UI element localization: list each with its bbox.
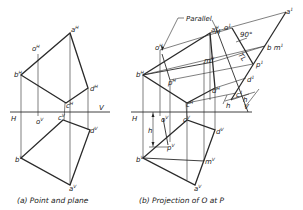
arrow-h-top (152, 113, 155, 117)
label-oV: oV (36, 117, 44, 126)
label-mV-b: mV (205, 157, 216, 166)
label-dV-b: dV (216, 127, 224, 136)
label-aV: aV (69, 184, 77, 193)
fold-label-v: V (99, 104, 105, 112)
label-aH: aH (71, 25, 79, 34)
arrow-h-bottom (152, 142, 155, 146)
parallel-leader-1 (162, 18, 184, 50)
label-p1: p1 (255, 60, 263, 69)
fold-label-h: H (11, 115, 17, 123)
label-dV: dV (90, 126, 98, 135)
line-bm-front (143, 158, 204, 161)
descriptive-geometry-figure: H V aH oH bH dH cH oV cV dV bV aV (a) Po… (0, 0, 303, 210)
figure-a: H V aH oH bH dH cH oV cV dV bV aV (a) Po… (10, 25, 110, 205)
caption-a: (a) Point and plane (17, 196, 89, 205)
plane-front-view (21, 120, 90, 185)
label-bm1: b m1 (267, 43, 284, 52)
plane-top-view (21, 33, 88, 103)
label-oV-b: oV (161, 115, 169, 124)
label-dH-b: dH (212, 86, 220, 95)
dim-h-label-aux: h (226, 102, 230, 110)
label-aV-b: aV (194, 184, 202, 193)
label-c1: c1 (236, 90, 243, 99)
aux-projector-o (160, 28, 232, 50)
label-bV-b: bV (136, 155, 144, 164)
dim-h-label: h (148, 127, 152, 135)
line-op-top (162, 54, 170, 80)
label-bV: bV (15, 155, 23, 164)
figure-b: H V H (131, 7, 293, 205)
tl-label: TL (236, 52, 247, 63)
label-a1: a1 (286, 7, 293, 16)
label-pH-b: pH (167, 78, 176, 87)
aux-projector-p (170, 64, 253, 80)
label-cH-b: cH (186, 100, 194, 109)
label-d1: d1 (247, 75, 254, 84)
label-o1: o1 (224, 23, 231, 32)
dim-h-label-aux-2: h (243, 96, 247, 104)
label-dH: dH (90, 84, 98, 93)
parallel-label: Parallel (186, 15, 212, 23)
label-pV-b: pV (166, 143, 175, 152)
caption-b: (b) Projection of O at P (139, 196, 225, 205)
label-oH: oH (32, 44, 40, 53)
fold-label-h-b: H (132, 115, 138, 123)
angle-label: 90° (240, 31, 252, 39)
